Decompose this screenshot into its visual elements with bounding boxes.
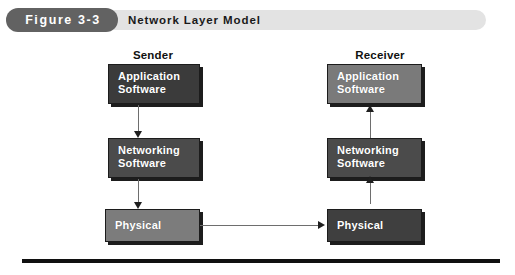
- layer-box-sender-physical: Physical: [105, 209, 200, 242]
- layer-box-receiver-networking: Networking Software: [327, 138, 422, 178]
- connector-sender-app-to-net-line: [138, 105, 139, 132]
- arrow-up-icon: [366, 176, 374, 183]
- arrow-down-icon: [134, 202, 142, 209]
- connector-recv-net-to-app-line: [370, 110, 371, 138]
- column-label-sender: Sender: [105, 49, 201, 61]
- layer-box-line1: Networking: [118, 144, 199, 157]
- bottom-divider-rule: [22, 259, 500, 263]
- connector-recv-phys-to-net-line: [370, 180, 371, 204]
- layer-box-line1: Physical: [337, 219, 421, 232]
- network-layer-diagram: Sender Receiver Application Software Net…: [0, 0, 515, 275]
- layer-box-line2: Software: [337, 83, 421, 96]
- connector-physical-link-line: [200, 225, 320, 226]
- layer-box-line1: Application: [337, 70, 421, 83]
- layer-box-sender-application: Application Software: [108, 64, 200, 104]
- layer-box-line2: Software: [118, 157, 199, 170]
- connector-sender-net-to-phys-line: [138, 179, 139, 203]
- layer-box-receiver-physical: Physical: [327, 209, 422, 242]
- arrow-down-icon: [134, 131, 142, 138]
- layer-box-line1: Networking: [337, 144, 421, 157]
- layer-box-line2: Software: [337, 157, 421, 170]
- layer-box-line1: Application: [118, 70, 199, 83]
- arrow-right-icon: [318, 221, 325, 229]
- layer-box-line1: Physical: [115, 219, 199, 232]
- layer-box-line2: Software: [118, 83, 199, 96]
- column-label-receiver: Receiver: [327, 49, 433, 61]
- layer-box-receiver-application: Application Software: [327, 64, 422, 104]
- layer-box-sender-networking: Networking Software: [108, 138, 200, 178]
- arrow-up-icon: [366, 105, 374, 112]
